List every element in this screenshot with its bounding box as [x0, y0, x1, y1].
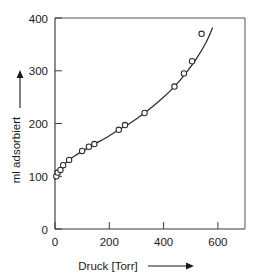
x-tick-label-200: 200 — [100, 236, 119, 248]
data-point — [172, 84, 177, 89]
data-point — [189, 59, 194, 64]
data-point-markers — [54, 31, 205, 179]
data-point — [66, 157, 71, 162]
data-point — [60, 162, 65, 167]
x-tick-label-400: 400 — [154, 236, 173, 248]
x-tick-label-0: 0 — [52, 236, 58, 248]
data-point — [142, 110, 147, 115]
x-axis-title: Druck [Torr] — [78, 260, 137, 272]
x-axis-title-group: Druck [Torr] — [78, 260, 194, 272]
y-tick-label-200: 200 — [29, 118, 48, 130]
y-tick-label-400: 400 — [29, 13, 48, 25]
data-point — [86, 144, 91, 149]
data-point — [199, 31, 204, 36]
y-axis-title: ml adsorbiert — [10, 116, 22, 183]
x-axis-ticks — [55, 222, 218, 229]
chart-figure: 400 300 200 100 0 0 200 400 600 Druck [T… — [0, 0, 263, 280]
y-tick-label-300: 300 — [29, 65, 48, 77]
y-axis-title-group: ml adsorbiert — [10, 70, 23, 183]
y-axis-arrow-head — [17, 70, 24, 78]
data-point — [122, 122, 127, 127]
y-tick-label-100: 100 — [29, 171, 48, 183]
y-tick-labels: 400 300 200 100 0 — [29, 13, 48, 236]
x-tick-labels: 0 200 400 600 — [52, 236, 228, 248]
y-tick-label-0: 0 — [42, 224, 48, 236]
x-axis-arrow-head — [186, 263, 194, 270]
isotherm-curve — [55, 28, 212, 179]
plot-frame — [55, 18, 245, 229]
data-point — [116, 127, 121, 132]
x-tick-label-600: 600 — [208, 236, 227, 248]
data-point — [79, 148, 84, 153]
y-axis-ticks — [55, 18, 62, 229]
data-point — [92, 141, 97, 146]
adsorption-isotherm-chart: 400 300 200 100 0 0 200 400 600 Druck [T… — [0, 0, 263, 280]
data-point — [181, 71, 186, 76]
